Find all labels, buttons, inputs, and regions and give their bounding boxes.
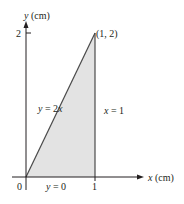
y-tick-label: 2 xyxy=(16,28,21,39)
equation-x-equals-1: x = 1 xyxy=(103,105,124,116)
point-label: (1, 2) xyxy=(96,28,118,40)
equation-y-equals-2x: y = 2x xyxy=(37,103,63,114)
equation-y-equals-0: y = 0 xyxy=(45,181,66,192)
origin-label: 0 xyxy=(17,181,22,192)
x-axis-label: x (cm) xyxy=(147,172,174,184)
x-axis-arrow-icon xyxy=(137,175,144,180)
x-tick-label: 1 xyxy=(92,181,97,192)
triangle-region-diagram: y (cm) x (cm) 2 1 0 (1, 2) y = 2x x = 1 … xyxy=(0,0,184,204)
y-axis-label: y (cm) xyxy=(23,10,50,22)
y-axis-arrow-icon xyxy=(24,21,29,28)
